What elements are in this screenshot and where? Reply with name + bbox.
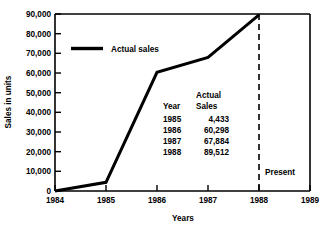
legend-label-actual-sales: Actual sales — [111, 45, 159, 54]
y-axis-tick-labels: 0 10,000 20,000 30,000 40,000 50,000 60,… — [26, 10, 51, 196]
x-axis-tick-labels: 1984 1985 1986 1987 1988 1989 — [46, 196, 320, 205]
y-tick-label: 80,000 — [26, 30, 51, 39]
table-cell-year: 1986 — [163, 126, 182, 135]
table-cell-sales: 60,298 — [204, 126, 229, 135]
table-row: 1987 67,884 — [163, 137, 229, 146]
table-cell-sales: 67,884 — [204, 137, 229, 146]
x-axis-title: Years — [172, 214, 194, 223]
table-cell-sales: 4,433 — [209, 115, 230, 124]
table-row: 1988 89,512 — [163, 148, 229, 157]
y-tick-label: 10,000 — [26, 167, 51, 176]
x-tick-label: 1985 — [97, 196, 116, 205]
y-tick-label: 50,000 — [26, 89, 51, 98]
table-row: 1985 4,433 — [163, 115, 229, 124]
table-cell-year: 1985 — [163, 115, 182, 124]
x-tick-label: 1989 — [301, 196, 320, 205]
x-tick-label: 1987 — [199, 196, 218, 205]
y-tick-label: 70,000 — [26, 49, 51, 58]
plot-frame — [55, 14, 310, 191]
present-label: Present — [265, 168, 295, 177]
table-row: 1986 60,298 — [163, 126, 229, 135]
table-header-actual: Actual — [196, 91, 221, 100]
x-tick-label: 1986 — [148, 196, 167, 205]
y-tick-label: 90,000 — [26, 10, 51, 19]
actual-sales-line — [55, 15, 259, 191]
chart-canvas: 0 10,000 20,000 30,000 40,000 50,000 60,… — [0, 0, 327, 231]
table-cell-year: 1988 — [163, 148, 182, 157]
y-tick-label: 0 — [46, 187, 51, 196]
sales-line-chart: 0 10,000 20,000 30,000 40,000 50,000 60,… — [0, 0, 327, 231]
y-tick-label: 20,000 — [26, 148, 51, 157]
table-cell-year: 1987 — [163, 137, 182, 146]
y-axis-ticks — [55, 14, 61, 191]
x-tick-label: 1988 — [250, 196, 269, 205]
inline-data-table: Actual Year Sales 1985 4,433 1986 60,298… — [163, 91, 229, 157]
y-axis-title: Sales in units — [4, 75, 13, 128]
y-tick-label: 30,000 — [26, 128, 51, 137]
table-header-sales: Sales — [196, 102, 218, 111]
legend: Actual sales — [71, 45, 159, 54]
table-cell-sales: 89,512 — [204, 148, 229, 157]
x-tick-label: 1984 — [46, 196, 65, 205]
y-tick-label: 60,000 — [26, 69, 51, 78]
y-tick-label: 40,000 — [26, 108, 51, 117]
table-header-year: Year — [163, 102, 181, 111]
